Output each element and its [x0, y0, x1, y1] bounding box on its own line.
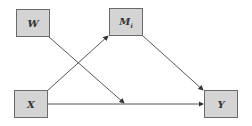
node-m: Mi — [109, 8, 143, 36]
node-x: X — [14, 90, 48, 118]
edge-w-to-xy-path — [49, 37, 124, 103]
node-x-label: X — [27, 99, 35, 110]
edge-m-to-y — [143, 36, 203, 90]
edge-x-to-m — [47, 36, 108, 91]
node-w: W — [16, 9, 50, 37]
node-m-subscript: i — [130, 22, 132, 29]
node-y-label: Y — [217, 99, 224, 110]
node-w-label: W — [27, 18, 38, 29]
node-m-letter: M — [119, 16, 130, 27]
node-m-label: Mi — [119, 16, 132, 29]
node-y: Y — [204, 90, 238, 118]
